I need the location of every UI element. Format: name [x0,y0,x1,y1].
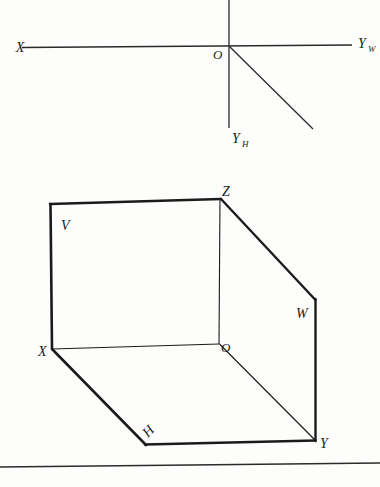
baseline-rule-layer [0,0,380,487]
bottom-border-line [0,463,380,467]
figure-canvas: X Y W Y H O V Z W X O Y H [0,0,380,487]
